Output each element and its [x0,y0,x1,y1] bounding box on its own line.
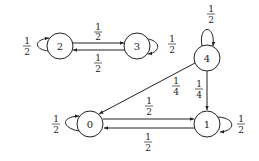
label-edge-1-1: 1 2 [237,114,245,135]
denominator: 2 [95,32,101,42]
node-label: 1 [204,119,210,130]
label-edge-2-3: 1 2 [94,22,102,42]
numerator: 1 [95,22,101,32]
label-edge-3-2: 1 2 [94,53,102,74]
label-edge-0-1: 1 2 [145,96,153,117]
label-edge-4-1: 1 4 [195,79,203,100]
numerator: 1 [95,53,101,63]
numerator: 1 [24,36,30,46]
node-label: 2 [57,41,63,52]
node-3: 3 [124,33,150,59]
node-label: 0 [87,119,93,130]
edge-4-to-4 [201,30,213,47]
label-edge-4-0: 1 4 [172,76,180,97]
label-edge-0-0: 1 2 [52,114,60,135]
denominator: 4 [196,90,202,100]
numerator: 1 [169,34,175,44]
numerator: 1 [173,76,179,86]
denominator: 2 [95,64,101,74]
denominator: 4 [173,87,179,97]
label-edge-4-4: 1 2 [207,4,215,25]
denominator: 2 [169,45,175,55]
node-label: 4 [204,53,210,64]
denominator: 2 [208,15,214,25]
label-edge-1-0: 1 2 [144,132,152,153]
numerator: 1 [53,114,59,124]
numerator: 1 [145,132,151,142]
numerator: 1 [208,4,214,14]
denominator: 2 [145,143,151,153]
node-4: 4 [194,45,220,71]
denominator: 2 [146,107,152,117]
denominator: 2 [53,125,59,135]
numerator: 1 [238,114,244,124]
numerator: 1 [146,96,152,106]
denominator: 2 [238,125,244,135]
markov-chain-diagram: 0 1 2 3 4 1 2 1 2 1 2 1 2 1 2 1 [0,0,259,161]
denominator: 2 [24,47,30,57]
node-1: 1 [194,111,220,137]
label-edge-3-3: 1 2 [168,34,176,55]
numerator: 1 [196,79,202,89]
node-label: 3 [134,41,140,52]
node-0: 0 [77,111,103,137]
node-2: 2 [47,33,73,59]
label-edge-2-2: 1 2 [23,36,31,57]
